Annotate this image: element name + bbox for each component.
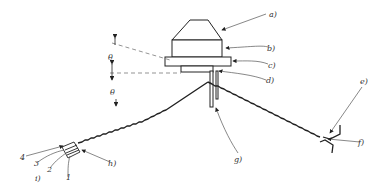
- label-1: 1: [66, 173, 71, 182]
- sensor-dome: [172, 20, 222, 40]
- sensor-base: [181, 66, 213, 72]
- theta-lower-label: θ: [110, 88, 115, 97]
- label-3: 3: [34, 159, 39, 168]
- label-i: i): [35, 174, 41, 183]
- sensor-body: [165, 20, 231, 107]
- sensor-mount-diagram: θ θ a) b) c) d) e) f) g) h) i) 4 3: [0, 0, 391, 189]
- sensor-cylinder: [172, 40, 222, 57]
- sensor-pin: [210, 71, 213, 107]
- label-e: e): [360, 77, 368, 86]
- label-h: h): [108, 159, 116, 168]
- label-c: c): [268, 61, 276, 70]
- left-spring-wire: [78, 82, 208, 143]
- label-2: 2: [46, 165, 52, 174]
- label-d: d): [266, 76, 274, 85]
- sensor-pin: [216, 71, 218, 99]
- left-clamp-block: [62, 142, 80, 158]
- label-4: 4: [19, 153, 25, 162]
- label-a: a): [269, 10, 277, 19]
- theta-upper-label: θ: [108, 53, 113, 62]
- label-g: g): [234, 155, 242, 164]
- label-f: f): [357, 138, 364, 147]
- sensor-flange: [165, 57, 231, 66]
- label-b: b): [267, 44, 275, 53]
